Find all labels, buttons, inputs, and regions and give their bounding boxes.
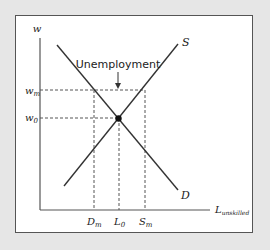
supply-label: S	[182, 36, 190, 49]
x-axis-label: Lunskilled	[214, 204, 249, 216]
unemployment-label: Unemployment	[76, 58, 161, 71]
tick-sm: Sm	[139, 216, 153, 229]
tick-l0: L0	[113, 216, 126, 229]
tick-dm: Dm	[86, 216, 102, 229]
equilibrium-point	[115, 115, 121, 121]
arrow-head-icon	[115, 83, 121, 89]
tick-w0: w0	[25, 112, 39, 125]
labor-market-diagram: Unemployment w S D wm w0 Dm L0 Sm Lunski…	[0, 0, 270, 250]
demand-label: D	[180, 189, 190, 202]
tick-wm: wm	[25, 85, 41, 98]
y-axis-label: w	[33, 23, 42, 34]
